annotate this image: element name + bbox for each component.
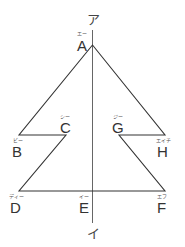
point-b-label: B: [12, 143, 22, 160]
point-a-reading: エー: [77, 30, 87, 36]
point-d-label: D: [10, 199, 21, 216]
point-g-label: G: [112, 119, 124, 136]
point-e-label: E: [79, 199, 89, 216]
axis-label-bottom: イ: [87, 226, 100, 241]
point-c-label: C: [60, 119, 71, 136]
axis-label-top: ア: [87, 12, 100, 27]
figure-outline: [19, 45, 165, 191]
point-h-label: H: [157, 143, 168, 160]
point-f-label: F: [157, 199, 166, 216]
point-a-label: A: [77, 37, 87, 54]
symmetric-figure-diagram: ア イ エー A ビー B シー C ディー D イー E エフ F ジー G …: [0, 0, 185, 247]
